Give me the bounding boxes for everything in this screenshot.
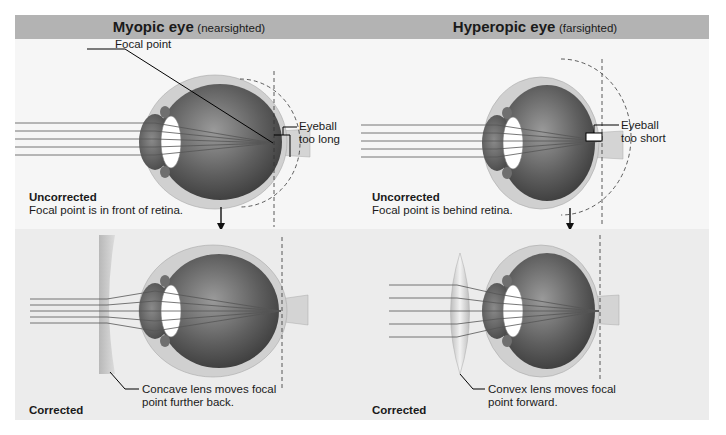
hyperopic-title: Hyperopic eye: [453, 18, 556, 35]
myopic-title: Myopic eye: [113, 18, 194, 35]
convex-lens-icon: [451, 253, 470, 374]
eyeball-too-short-label-line2: too short: [621, 132, 666, 145]
focal-point-label: Focal point: [115, 38, 171, 51]
convex-lens-label-line2: point forward.: [488, 396, 558, 409]
myopic-subtitle: (nearsighted): [197, 22, 265, 34]
eyeball-too-short-label-line1: Eyeball: [621, 119, 659, 132]
hyperopic-panel: Hyperopic eye (farsighted): [361, 15, 709, 420]
hyperopic-corrected-heading: Corrected: [372, 404, 426, 417]
myopic-corrected-heading: Corrected: [29, 404, 83, 417]
myopic-header: Myopic eye (nearsighted): [15, 15, 363, 39]
myopic-panel: Myopic eye (nearsighted): [15, 15, 363, 420]
myopic-corrected-section: Concave lens moves focal point further b…: [15, 229, 363, 420]
eyeball-too-long-label-line2: too long: [299, 133, 340, 146]
hyperopic-uncorrected-description: Focal point is behind retina.: [372, 204, 513, 217]
myopic-uncorrected-description: Focal point is in front of retina.: [29, 204, 183, 217]
concave-lens-label-line2: point further back.: [142, 396, 234, 409]
eyeball-too-long-label-line1: Eyeball: [299, 120, 337, 133]
hyperopic-subtitle: (farsighted): [559, 22, 617, 34]
myopic-uncorrected-heading: Uncorrected: [29, 191, 97, 204]
hyperopic-uncorrected-section: Eyeball too short Uncorrected Focal poin…: [361, 39, 709, 229]
convex-lens-label-line1: Convex lens moves focal: [488, 383, 616, 396]
hyperopic-uncorrected-heading: Uncorrected: [372, 191, 440, 204]
hyperopic-header: Hyperopic eye (farsighted): [361, 15, 709, 39]
hyperopic-corrected-section: Convex lens moves focal point forward. C…: [361, 229, 709, 420]
concave-lens-label-line1: Concave lens moves focal: [142, 383, 276, 396]
myopic-uncorrected-section: Focal point Eyeball too long Uncorrected…: [15, 39, 363, 229]
